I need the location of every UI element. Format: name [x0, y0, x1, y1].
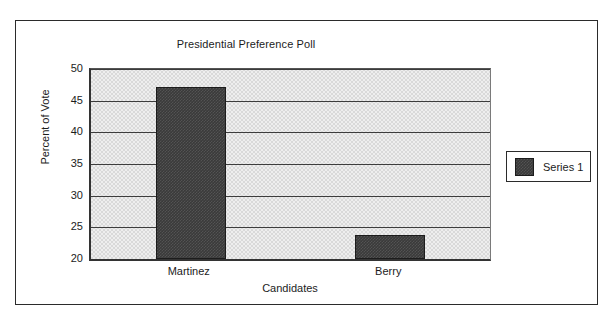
y-tick-label-40: 40 — [59, 125, 83, 137]
y-tick-label-50: 50 — [59, 62, 83, 74]
x-tick-label-martinez: Martinez — [129, 265, 249, 277]
y-axis-tick-labels: 50 45 40 35 30 25 20 — [57, 68, 83, 261]
x-tick-label-berry: Berry — [328, 265, 448, 277]
y-tick-label-25: 25 — [59, 220, 83, 232]
gridline-50 — [91, 69, 490, 70]
legend: Series 1 — [506, 151, 591, 182]
gridline-40 — [91, 132, 490, 133]
y-tick-label-30: 30 — [59, 189, 83, 201]
gridline-25 — [91, 227, 490, 228]
chart-frame: Presidential Preference Poll Percent of … — [15, 20, 598, 305]
gridline-30 — [91, 196, 490, 197]
legend-label-series-1: Series 1 — [543, 161, 583, 173]
gridline-45 — [91, 101, 490, 102]
y-tick-label-35: 35 — [59, 157, 83, 169]
y-tick-label-45: 45 — [59, 94, 83, 106]
y-axis-title: Percent of Vote — [39, 67, 51, 187]
legend-swatch-series-1 — [515, 158, 534, 176]
x-axis-tick-labels: Martinez Berry — [89, 265, 491, 281]
bar-martinez — [156, 87, 226, 259]
x-axis-title: Candidates — [89, 282, 491, 294]
gridline-35 — [91, 164, 490, 165]
plot-area — [89, 68, 491, 261]
y-tick-label-20: 20 — [59, 252, 83, 264]
chart-title: Presidential Preference Poll — [16, 38, 476, 50]
bar-berry — [355, 235, 425, 259]
